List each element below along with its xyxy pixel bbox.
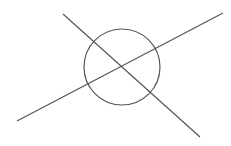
background [0,0,231,146]
diagram-canvas [0,0,231,146]
